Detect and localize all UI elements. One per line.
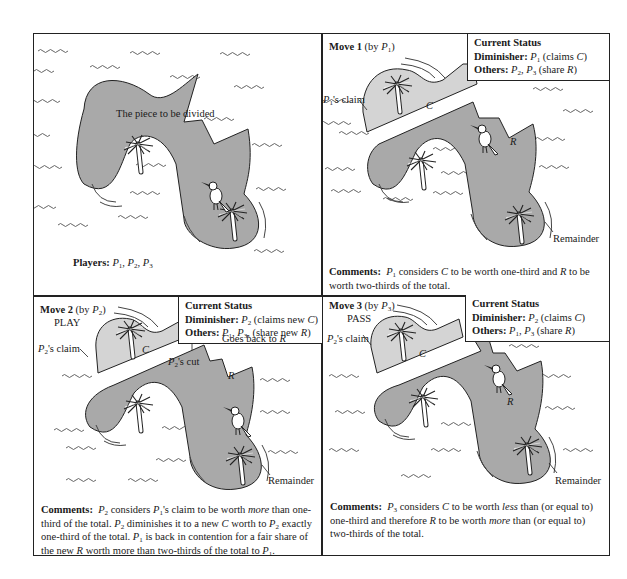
current-status-box: Current Status Diminisher: P1 (claims C)… — [467, 34, 609, 81]
others-close: ) — [571, 325, 575, 336]
remainder-label: Remainder — [555, 474, 601, 487]
move-by: (by — [365, 300, 382, 311]
comments-label: Comments: — [330, 501, 382, 512]
goes-back-var: R — [279, 333, 285, 344]
comments: Comments: P1 considers C to be worth one… — [329, 265, 605, 292]
comments-label: Comments: — [41, 504, 93, 515]
claim-label: P1's claim — [323, 93, 365, 106]
others-label: Others: — [474, 64, 508, 75]
others-label: Others: — [472, 325, 506, 336]
others-a-sub: 1 — [515, 330, 519, 338]
diminisher-label: Diminisher: — [185, 314, 239, 325]
status-others: Others: P2, P3 (share R) — [474, 63, 603, 77]
comment-text: . — [272, 545, 275, 556]
others-note: (share — [537, 325, 565, 336]
move-close: ) — [391, 300, 395, 311]
comment-var: C — [442, 501, 449, 512]
move-label: Move 2 — [40, 304, 73, 315]
move-label: Move 3 — [329, 300, 362, 311]
comment-text: 's claim to be worth — [163, 504, 248, 515]
diminisher-var: C — [308, 314, 315, 325]
piece-label: The piece to be divided — [116, 107, 215, 120]
current-status-box: Current Status Diminisher: P2 (claims C)… — [465, 295, 609, 342]
comment-emph: more — [489, 515, 510, 526]
players-list: Players: P1, P2, P3 — [73, 256, 153, 269]
diminisher-label: Diminisher: — [472, 312, 526, 323]
status-diminisher: Diminisher: P2 (claims new C) — [185, 313, 316, 327]
player-sub: 2 — [134, 262, 138, 270]
move-close: ) — [102, 304, 106, 315]
comment-emph: more — [248, 504, 269, 515]
move-label: Move 1 — [329, 41, 362, 52]
diminisher-note: (claims new — [254, 314, 308, 325]
claim-text: 's claim — [333, 94, 365, 105]
remainder-label: Remainder — [268, 474, 314, 487]
c-label: C — [426, 99, 433, 112]
claim-label: P2's claim — [327, 332, 369, 345]
others-b-sub: 3 — [531, 330, 535, 338]
player-sub: 3 — [149, 262, 153, 270]
comment-var: C — [222, 518, 229, 529]
claim-label: P2's claim — [38, 342, 80, 355]
diminisher-close: ) — [583, 51, 587, 62]
comment-emph: less — [502, 501, 518, 512]
others-b-sub: 3 — [533, 69, 537, 77]
comments-label: Comments: — [329, 266, 381, 277]
cut-text: 's cut — [178, 356, 199, 367]
move-close: ) — [391, 41, 395, 52]
remainder-label: Remainder — [553, 232, 599, 245]
status-diminisher: Diminisher: P1 (claims C) — [474, 50, 603, 64]
c-label: C — [142, 343, 149, 356]
move-heading: Move 1 (by P1) — [329, 40, 395, 53]
panel-move-3: Move 3 (by P3) PASS Current Status Dimin… — [323, 297, 609, 555]
diminisher-note: (claims — [543, 51, 577, 62]
panel-initial: The piece to be divided Players: P1, P2,… — [34, 34, 321, 295]
cut-label: P2's cut — [168, 355, 199, 368]
comment-text: worth to — [229, 518, 270, 529]
comment-text: worth more than two-thirds of the total … — [83, 545, 262, 556]
players-label: Players: — [73, 257, 110, 268]
comment-text: to be worth — [436, 515, 489, 526]
claim-text: 's claim — [337, 333, 369, 344]
move-heading: Move 3 (by P3) PASS — [329, 299, 395, 325]
comment-text: to be worth — [449, 501, 502, 512]
comments: Comments: P2 considers P1's claim to be … — [41, 503, 321, 557]
move-heading: Move 2 (by P2) PLAY — [40, 303, 106, 329]
panel-move-2: Move 2 (by P2) PLAY Current Status Dimin… — [34, 297, 321, 555]
r-label: R — [507, 395, 513, 408]
comment-text: diminishes it to a new — [124, 518, 221, 529]
diminisher-label: Diminisher: — [474, 51, 528, 62]
others-label: Others: — [185, 327, 219, 338]
r-label: R — [228, 369, 234, 382]
r-label: R — [510, 135, 516, 148]
move-by: (by — [76, 304, 93, 315]
c-label: C — [419, 347, 426, 360]
diminisher-close: ) — [581, 312, 585, 323]
comment-text: to be worth one-third and — [448, 266, 560, 277]
comment-var: C — [441, 266, 448, 277]
comments: Comments: P3 considers C to be worth les… — [330, 500, 606, 541]
others-close: ) — [573, 64, 577, 75]
others-a-sub: 2 — [517, 69, 521, 77]
goes-back-label: Goes back to R — [222, 332, 286, 345]
comment-text: considers — [396, 266, 441, 277]
panel-move-1: Move 1 (by P1) Current Status Diminisher… — [323, 34, 609, 295]
status-heading: Current Status — [472, 297, 603, 311]
status-heading: Current Status — [474, 36, 603, 50]
claim-text: 's claim — [48, 343, 80, 354]
player-sub: 1 — [119, 262, 123, 270]
status-heading: Current Status — [185, 299, 316, 313]
diminisher-note: (claims — [541, 312, 575, 323]
comment-text: considers — [108, 504, 153, 515]
move-action: PASS — [329, 312, 395, 325]
move-by: (by — [365, 41, 382, 52]
comment-text: considers — [397, 501, 442, 512]
others-close: ) — [307, 327, 311, 338]
others-note: (share — [539, 64, 567, 75]
status-others: Others: P1, P3 (share R) — [472, 324, 603, 338]
goes-back-text: Goes back to — [222, 333, 279, 344]
move-action: PLAY — [40, 316, 106, 329]
status-diminisher: Diminisher: P2 (claims C) — [472, 311, 603, 325]
diminisher-close: ) — [315, 314, 319, 325]
